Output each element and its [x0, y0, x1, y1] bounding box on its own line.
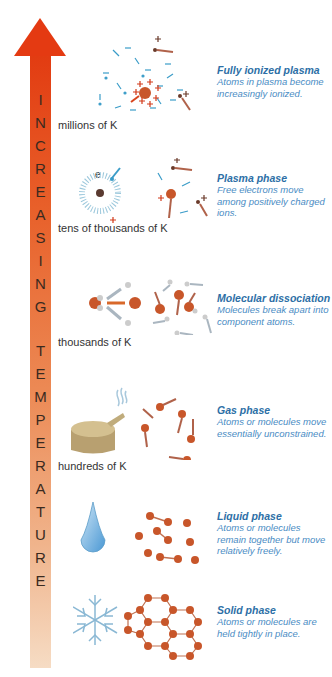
- phase-title: Liquid phase: [217, 510, 332, 522]
- arrow-letter: A: [35, 477, 45, 500]
- arrow-letter: E: [35, 362, 45, 385]
- arrow-letter: C: [35, 134, 46, 157]
- snowflake-icon: [73, 590, 218, 660]
- arrow-letter: E: [35, 569, 45, 592]
- phase-liquid: Liquid phase Atoms or molecules remain t…: [217, 510, 332, 557]
- temperature-arrow-label: I N C R E A S I N G T E M P E R A T U R …: [30, 88, 51, 592]
- phase-title: Gas phase: [217, 404, 332, 416]
- arrow-letter: E: [35, 180, 45, 203]
- phase-title: Molecular dissociation: [217, 292, 332, 304]
- phase-description: Atoms or molecules move essentially unco…: [217, 416, 332, 439]
- arrow-letter: U: [35, 523, 46, 546]
- arrow-letter: A: [35, 203, 45, 226]
- electron-atom-icon: e: [70, 158, 215, 223]
- temperature-arrow-head: [14, 18, 66, 56]
- arrow-letter: N: [35, 272, 46, 295]
- phase-fully-ionized-plasma: Fully ionized plasma Atoms in plasma bec…: [217, 64, 332, 99]
- phase-molecular-dissociation: Molecular dissociation Molecules break a…: [217, 292, 332, 327]
- arrow-letter: G: [35, 295, 47, 318]
- phase-description: Molecules break apart into component ato…: [217, 304, 332, 327]
- phase-description: Atoms or molecules remain together but m…: [217, 522, 332, 557]
- temperature-label-millions: millions of K: [58, 119, 117, 131]
- temperature-label-hundreds: hundreds of K: [58, 460, 127, 472]
- arrow-letter: R: [35, 454, 46, 477]
- arrow-letter: T: [36, 500, 45, 523]
- phase-title: Solid phase: [217, 604, 332, 616]
- water-drop-icon: [75, 500, 215, 570]
- phase-description: Atoms or molecules are held tightly in p…: [217, 616, 332, 639]
- phase-gas: Gas phase Atoms or molecules move essent…: [217, 404, 332, 439]
- temperature-label-tens-of-thousands: tens of thousands of K: [58, 222, 167, 234]
- arrow-letter: I: [38, 88, 42, 111]
- arrow-letter: N: [35, 111, 46, 134]
- phase-description: Atoms in plasma become increasingly ioni…: [217, 76, 332, 99]
- arrow-letter: R: [35, 157, 46, 180]
- temperature-label-thousands: thousands of K: [58, 336, 131, 348]
- phase-solid: Solid phase Atoms or molecules are held …: [217, 604, 332, 639]
- plasma-ions-icon: [95, 28, 210, 118]
- kettle-steam-icon: [63, 385, 218, 460]
- arrow-letter: S: [35, 226, 45, 249]
- arrow-letter: T: [36, 339, 45, 362]
- arrow-letter: P: [35, 408, 45, 431]
- arrow-letter: E: [35, 431, 45, 454]
- phase-plasma: Plasma phase Free electrons move among p…: [217, 172, 332, 219]
- molecule-break-icon: [75, 275, 220, 335]
- arrow-letter: R: [35, 546, 46, 569]
- phase-title: Plasma phase: [217, 172, 332, 184]
- arrow-letter: I: [38, 249, 42, 272]
- arrow-letter: M: [34, 385, 47, 408]
- phase-title: Fully ionized plasma: [217, 64, 332, 76]
- phase-description: Free electrons move among positively cha…: [217, 184, 332, 219]
